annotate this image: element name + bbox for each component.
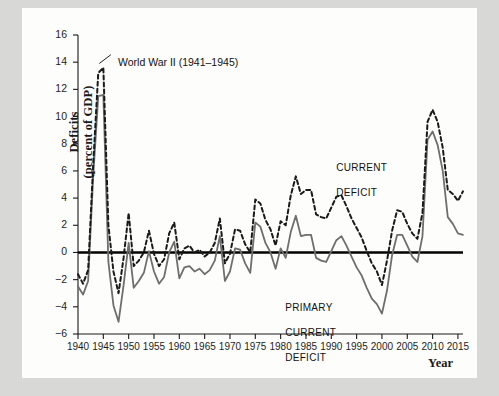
primary-label-line3: DEFICIT — [285, 352, 326, 363]
primary-current-deficit-label: PRIMARY CURRENT DEFICIT — [279, 289, 336, 364]
y-tick-label: 16 — [45, 28, 67, 40]
wwii-annotation: World War II (1941–1945) — [118, 56, 238, 69]
y-tick-label: −4 — [45, 300, 67, 312]
y-tick-label: 0 — [45, 245, 67, 257]
current-deficit-label: CURRENT DEFICIT — [330, 149, 387, 199]
y-tick-label: 12 — [45, 82, 67, 94]
y-tick-label: −2 — [45, 273, 67, 285]
x-axis-title: Year — [428, 356, 453, 371]
y-tick-marks — [73, 35, 78, 334]
current-deficit-label-line1: CURRENT — [336, 162, 387, 173]
x-tick-marks — [78, 334, 458, 339]
current-deficit-line — [78, 68, 463, 294]
axes — [73, 35, 463, 339]
y-tick-label: −6 — [45, 327, 67, 339]
y-tick-label: 8 — [45, 137, 67, 149]
primary-label-line2: CURRENT — [285, 327, 336, 338]
deficits-chart — [0, 0, 499, 396]
primary-label-line1: PRIMARY — [285, 302, 332, 313]
current-deficit-label-line2: DEFICIT — [336, 187, 377, 198]
y-tick-label: 10 — [45, 110, 67, 122]
y-tick-label: 2 — [45, 218, 67, 230]
x-tick-label: 2015 — [441, 341, 475, 352]
y-tick-label: 6 — [45, 164, 67, 176]
y-tick-label: 4 — [45, 191, 67, 203]
wwii-leader-line — [99, 55, 111, 64]
y-tick-label: 14 — [45, 55, 67, 67]
primary-current-deficit-line — [78, 95, 463, 322]
